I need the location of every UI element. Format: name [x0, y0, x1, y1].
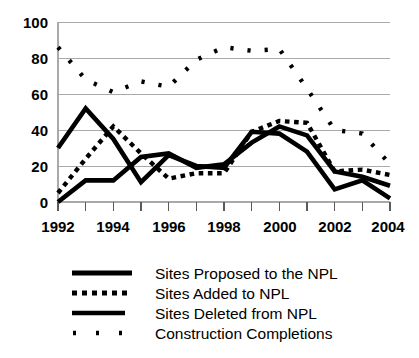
legend-label-sites-deleted: Sites Deleted from NPL: [155, 305, 317, 322]
x-tick-label-1992: 1992: [41, 218, 74, 235]
legend-label-sites-added: Sites Added to NPL: [155, 285, 290, 302]
x-tick-label-2004: 2004: [371, 218, 405, 235]
x-tick-label-1998: 1998: [207, 218, 240, 235]
x-tick-label-1994: 1994: [96, 218, 130, 235]
legend-label-construction-completions: Construction Completions: [155, 325, 333, 342]
x-tick-label-1996: 1996: [152, 218, 185, 235]
x-axis-tick-labels: 1992 1994 1996 1998 2000 2002 2004: [41, 218, 405, 235]
x-tick-label-2002: 2002: [318, 218, 351, 235]
y-tick-label-40: 40: [31, 122, 48, 139]
chart-container: 100 80 60 40 20 0 1992 1994 1996 1998 20…: [0, 0, 419, 358]
legend-label-sites-proposed: Sites Proposed to the NPL: [155, 265, 338, 282]
x-tick-label-2000: 2000: [263, 218, 296, 235]
y-tick-label-80: 80: [31, 50, 48, 67]
y-tick-label-100: 100: [23, 14, 48, 31]
y-tick-label-0: 0: [40, 194, 48, 211]
y-tick-label-20: 20: [31, 158, 48, 175]
y-tick-label-60: 60: [31, 86, 48, 103]
npl-superfund-line-chart: 100 80 60 40 20 0 1992 1994 1996 1998 20…: [0, 0, 419, 358]
